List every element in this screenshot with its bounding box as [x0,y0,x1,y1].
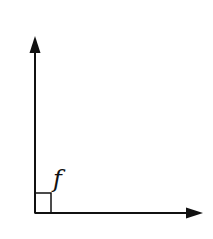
right-angle-diagram: f [0,0,213,239]
background [0,0,213,239]
